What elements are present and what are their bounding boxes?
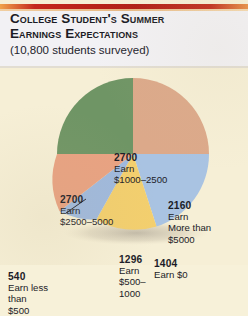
slice-label-earn-more-than-5000: 2160 Earn More than $5000: [168, 200, 244, 245]
slice-label-earn-2500-5000: 2700 Earn $2500–5000: [60, 194, 140, 228]
page-title-line-1: College Student's Summer: [10, 12, 225, 27]
slice-value: 2700: [114, 152, 196, 163]
slice-desc-line-3: $500: [8, 305, 70, 316]
slice-value: 1404: [154, 258, 212, 269]
slice-value: 2160: [168, 200, 244, 211]
page-subtitle: (10,800 students surveyed): [10, 44, 225, 57]
slice-desc-line-3: 1000: [119, 288, 161, 299]
slice-label-earn-0: 1404 Earn $0: [154, 258, 212, 280]
pie-slice-earn-1000-2500: [133, 78, 209, 154]
slice-label-earn-500-1000: 1296 Earn $500– 1000: [119, 254, 161, 299]
slice-desc-line-3: $5000: [168, 234, 244, 245]
slice-desc-line-1: Earn: [119, 265, 161, 276]
slice-value: 2700: [60, 194, 140, 205]
slice-label-earn-1000-2500: 2700 Earn $1000–2500: [114, 152, 196, 186]
slice-desc-line-2: $2500–5000: [60, 216, 140, 227]
page-title-line-2: Earnings Expectations: [10, 27, 225, 42]
pie-slice-earn-2500-5000: [57, 78, 133, 154]
slice-desc-line-1: Earn: [60, 205, 140, 216]
slice-desc-line-1: Earn $0: [154, 269, 212, 280]
pie-chart: 2700 Earn $1000–2500 2700 Earn $2500–500…: [0, 68, 248, 265]
slice-desc-line-2: $500–: [119, 276, 161, 287]
page-title: College Student's Summer Earnings Expect…: [10, 12, 225, 41]
slice-desc-line-1: Earn: [168, 211, 244, 222]
slice-desc-line-2: $1000–2500: [114, 174, 196, 185]
slice-desc-line-2: More than: [168, 222, 244, 233]
slice-desc-line-1: Earn: [114, 163, 196, 174]
slice-value: 1296: [119, 254, 161, 265]
slice-desc-line-1: Earn less: [8, 282, 70, 293]
slice-desc-line-2: than: [8, 293, 70, 304]
slice-label-earn-less-than-500: 540 Earn less than $500: [8, 271, 70, 316]
slice-value: 540: [8, 271, 70, 282]
